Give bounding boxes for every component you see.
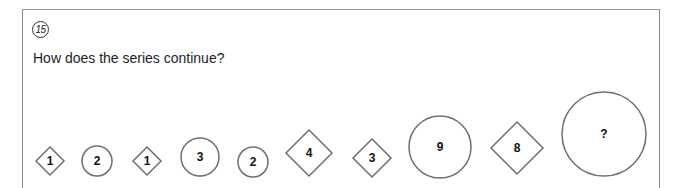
series-item-label: 1 xyxy=(144,154,151,168)
series-item-label: 2 xyxy=(94,154,101,168)
series-item-diamond: 1 xyxy=(133,147,161,175)
series-item-label: 2 xyxy=(250,155,257,169)
series-item-circle: 2 xyxy=(238,147,268,177)
series-item-circle: 2 xyxy=(82,146,112,176)
series-item-label: ? xyxy=(600,127,607,141)
series-item-label: 4 xyxy=(306,146,313,160)
series-item-label: 1 xyxy=(47,154,54,168)
series-item-circle: ? xyxy=(562,92,646,176)
series-item-label: 8 xyxy=(514,141,521,155)
series-item-label: 9 xyxy=(437,140,444,154)
series-item-label: 3 xyxy=(197,150,204,164)
series-item-circle: 3 xyxy=(181,138,219,176)
series-item-diamond: 1 xyxy=(36,147,64,175)
series-item-diamond: 8 xyxy=(491,122,543,174)
series-item-diamond: 4 xyxy=(286,130,332,176)
series-item-diamond: 3 xyxy=(353,139,391,177)
series-figure: 121324398? xyxy=(0,0,680,188)
series-item-label: 3 xyxy=(369,151,376,165)
series-item-circle: 9 xyxy=(409,116,471,178)
